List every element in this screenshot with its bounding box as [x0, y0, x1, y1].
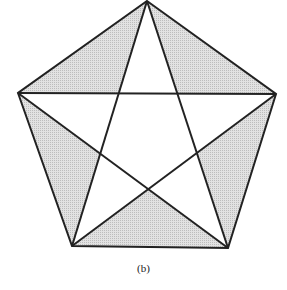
figure-caption: (b) [0, 262, 287, 274]
shaded-triangle-bottom [72, 189, 228, 248]
shaded-regions [18, 1, 276, 248]
pentagon-pentagram-diagram [0, 0, 287, 290]
shaded-triangle-right [198, 94, 276, 248]
shaded-triangle-left [18, 93, 100, 246]
